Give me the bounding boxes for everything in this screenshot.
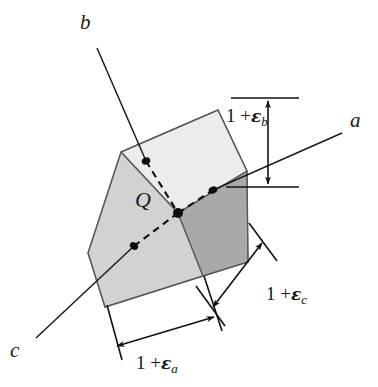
eps-b-subscript: b: [261, 114, 268, 129]
center-point-label: Q: [135, 187, 151, 213]
eps-b-prefix: 1 +: [226, 105, 251, 126]
center-dot: [173, 208, 183, 218]
eps-c-extension-lower: [196, 286, 225, 326]
cube-body: [88, 110, 248, 307]
eps-c-prefix: 1 +: [266, 283, 291, 304]
eps-a-extension-left: [107, 305, 122, 360]
eps-a-prefix: 1 +: [136, 352, 161, 373]
dimension-label-eps-b: 1 +εb: [226, 105, 268, 130]
eps-a-symbol: ε: [161, 353, 171, 373]
eps-b-symbol: ε: [251, 106, 261, 126]
strain-cube-figure: b a c Q 1 +εb 1 +εc 1 +εa: [0, 0, 378, 387]
eps-a-arrow: [117, 317, 214, 346]
eps-c-subscript: c: [301, 292, 307, 307]
dimension-label-eps-a: 1 +εa: [136, 352, 178, 377]
axis-label-b: b: [80, 10, 91, 35]
eps-a-extension-right: [204, 276, 222, 331]
figure-canvas: [0, 0, 378, 387]
eps-a-subscript: a: [171, 361, 178, 376]
axis-label-c: c: [10, 338, 19, 363]
axis-line-b: [97, 48, 146, 161]
eps-c-symbol: ε: [291, 284, 301, 304]
dimension-label-eps-c: 1 +εc: [266, 283, 307, 308]
axis-label-a: a: [350, 108, 361, 133]
